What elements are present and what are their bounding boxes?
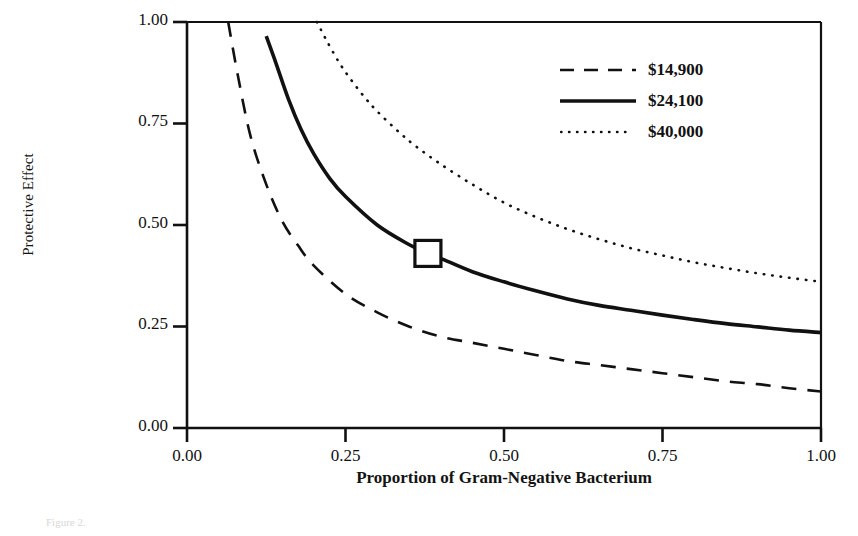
legend-key-dashed-icon	[560, 63, 636, 77]
legend-item-14900: $14,900	[560, 54, 810, 85]
x-tick-label-1.00: 1.00	[781, 446, 858, 466]
y-tick-label-0.50: 0.50	[98, 213, 168, 233]
y-axis-label: Protective Effect	[20, 105, 37, 305]
legend-key-dotted-icon	[560, 125, 636, 139]
marker-baseline-point	[415, 240, 441, 266]
y-tick-label-1.00: 1.00	[98, 10, 168, 30]
x-tick-marks	[187, 428, 821, 442]
y-tick-label-0.25: 0.25	[98, 314, 168, 334]
legend-key-solid-icon	[560, 94, 636, 108]
x-tick-label-0.25: 0.25	[306, 446, 386, 466]
legend-label-14900: $14,900	[648, 60, 703, 80]
x-tick-label-0.50: 0.50	[464, 446, 544, 466]
y-tick-marks	[173, 22, 187, 428]
legend-item-40000: $40,000	[560, 116, 810, 147]
figure-caption: Figure 2.	[46, 516, 86, 528]
data-markers	[415, 240, 441, 266]
figure-container: Protective Effect Proportion of Gram-Neg…	[0, 0, 858, 536]
x-tick-label-0.00: 0.00	[147, 446, 227, 466]
legend-label-24100: $24,100	[648, 91, 703, 111]
legend-label-40000: $40,000	[648, 122, 703, 142]
legend-item-24100: $24,100	[560, 85, 810, 116]
y-tick-label-0.00: 0.00	[98, 416, 168, 436]
x-axis-label: Proportion of Gram-Negative Bacterium	[187, 468, 821, 488]
x-tick-label-0.75: 0.75	[623, 446, 703, 466]
y-tick-label-0.75: 0.75	[98, 111, 168, 131]
chart-legend: $14,900 $24,100 $40,000	[560, 54, 810, 147]
